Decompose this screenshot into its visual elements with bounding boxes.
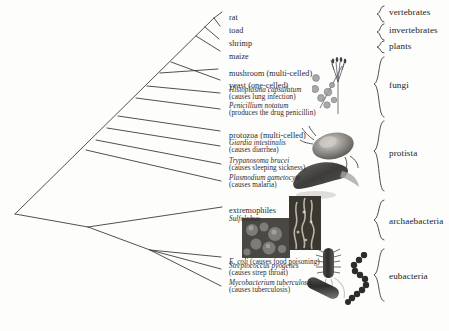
- taxon-note: (produces the drug penicillin): [229, 110, 316, 117]
- taxon-label-extremophiles: extremophiles Sulfolobus: [229, 200, 276, 224]
- taxon-label-plasmodium: Plasmodium gametocyte (causes malaria): [229, 175, 301, 190]
- taxon-note: (causes tuberculosis): [229, 287, 312, 294]
- taxon-species: Sulfolobus: [229, 216, 276, 223]
- taxon-label-giardia: Giardia intestinalis (causes diarrhea): [229, 140, 286, 155]
- taxon-note: (causes diarrhea): [229, 147, 286, 154]
- kingdom-label-archaebacteria: archaebacteria: [389, 216, 443, 226]
- taxon-label-histoplasma: Histoplasma capsulatum (causes lung infe…: [229, 87, 301, 102]
- taxon-name: maize: [229, 52, 249, 61]
- taxon-note: (causes sleeping sickness): [229, 165, 305, 172]
- kingdom-label-fungi: fungi: [389, 80, 409, 90]
- kingdom-label-vertebrates: vertebrates: [389, 7, 430, 17]
- taxon-note: (causes lung infection): [229, 94, 301, 101]
- kingdom-label-invertebrates: invertebrates: [389, 25, 438, 35]
- taxon-label-maize: maize: [229, 46, 249, 62]
- taxon-note: (causes strep throat): [229, 270, 299, 277]
- taxon-label-mycobacterium: Mycobacterium tuberculosis (causes tuber…: [229, 280, 312, 295]
- taxon-name: extremophiles: [229, 206, 276, 215]
- taxon-label-streptococcus: Streptococcus pyogenes (causes strep thr…: [229, 263, 299, 278]
- kingdom-label-protista: protista: [389, 148, 417, 158]
- phylogenetic-tree-diagram: rat toad shrimp maize mushroom (multi-ce…: [0, 0, 449, 331]
- taxon-note: (causes malaria): [229, 182, 301, 189]
- taxon-label-trypanosoma: Trypanosoma brucei (causes sleeping sick…: [229, 158, 305, 173]
- kingdom-braces: [0, 0, 449, 331]
- kingdom-label-eubacteria: eubacteria: [389, 271, 428, 281]
- taxon-label-penicillium: Penicillium notatum (produces the drug p…: [229, 103, 316, 118]
- kingdom-label-plants: plants: [389, 41, 412, 51]
